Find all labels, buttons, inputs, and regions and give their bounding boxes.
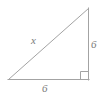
hypotenuse-line bbox=[9, 9, 89, 80]
triangle-drawing bbox=[0, 0, 102, 95]
base-leg-label: 6 bbox=[42, 83, 48, 94]
vertical-leg-label: 6 bbox=[91, 39, 97, 50]
right-angle-marker-icon bbox=[81, 72, 89, 80]
hypotenuse-label: x bbox=[31, 35, 36, 46]
right-triangle-figure: x 6 6 bbox=[0, 0, 102, 95]
